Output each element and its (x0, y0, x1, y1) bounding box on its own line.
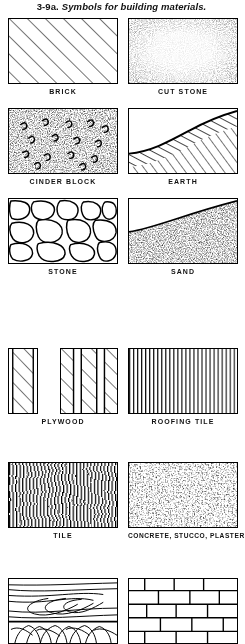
symbol-cell-roofing-tile: ROOFING TILE (128, 348, 238, 414)
symbol-cell-cinder-block: CINDER BLOCK (8, 108, 118, 174)
symbol-cell-stone: STONE (8, 198, 118, 264)
symbol-label-cinder-block: CINDER BLOCK (8, 178, 118, 185)
symbol-swatch-wood (8, 578, 118, 644)
symbol-swatch-roofing-tile (128, 348, 238, 414)
symbol-label-plywood: PLYWOOD (8, 418, 118, 425)
symbol-swatch-sand (128, 198, 238, 264)
symbol-cell-plywood: PLYWOOD (8, 348, 118, 414)
figure-title: 3-9a.Symbols for building materials. (0, 1, 243, 12)
symbol-cell-earth: EARTH (128, 108, 238, 174)
symbol-cell-wood (8, 578, 118, 644)
symbol-swatch-plywood-face (60, 348, 118, 414)
symbol-label-sand: SAND (128, 268, 238, 275)
symbol-cell-running-bond-block (128, 578, 238, 644)
symbol-label-tile: TILE (8, 532, 118, 539)
symbol-label-roofing-tile: ROOFING TILE (128, 418, 238, 425)
symbol-swatch-stone (8, 198, 118, 264)
symbol-swatch-earth (128, 108, 238, 174)
symbol-cell-sand: SAND (128, 198, 238, 264)
symbol-swatch-plywood-edge (8, 348, 38, 414)
symbol-label-earth: EARTH (128, 178, 238, 185)
symbol-swatch-cut-stone (128, 18, 238, 84)
symbol-cell-concrete-stucco-plaster: CONCRETE, STUCCO, PLASTER (128, 462, 238, 528)
symbol-label-concrete-stucco-plaster: CONCRETE, STUCCO, PLASTER (128, 532, 238, 539)
figure-caption: Symbols for building materials. (62, 1, 207, 12)
symbol-cell-brick: BRICK (8, 18, 118, 84)
symbol-cell-cut-stone: CUT STONE (128, 18, 238, 84)
symbol-swatch-brick (8, 18, 118, 84)
symbol-swatch-cinder-block (8, 108, 118, 174)
symbol-cell-tile: TILE (8, 462, 118, 528)
symbol-label-brick: BRICK (8, 88, 118, 95)
symbol-swatch-running-bond-block (128, 578, 238, 644)
symbol-swatch-tile (8, 462, 118, 528)
symbol-label-stone: STONE (8, 268, 118, 275)
symbol-swatch-concrete-stucco-plaster (128, 462, 238, 528)
figure-number: 3-9a. (37, 1, 59, 12)
symbol-label-cut-stone: CUT STONE (128, 88, 238, 95)
